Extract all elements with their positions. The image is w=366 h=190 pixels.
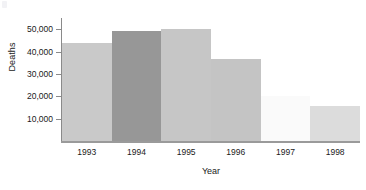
x-tick-label-1993: 1993 (62, 147, 112, 157)
x-axis-line (61, 141, 360, 143)
bar-1993 (62, 43, 112, 141)
x-axis-title: Year (62, 166, 360, 176)
y-tick-label: 50,000 (5, 24, 53, 34)
x-tick-label-1997: 1997 (261, 147, 311, 157)
bar-chart: Deaths 10,00020,00030,00040,00050,000 19… (0, 0, 366, 190)
x-tick-label-1996: 1996 (211, 147, 261, 157)
y-tick-label: 30,000 (5, 69, 53, 79)
bar-1995 (161, 29, 211, 141)
bar-1998 (310, 106, 360, 141)
y-tick-label: 10,000 (5, 114, 53, 124)
x-tick-label-1995: 1995 (161, 147, 211, 157)
plot-area (62, 18, 360, 141)
x-tick-label-1994: 1994 (112, 147, 162, 157)
corner-artifact (2, 1, 7, 8)
bar-1997 (261, 96, 311, 141)
y-tick-label: 40,000 (5, 47, 53, 57)
bar-1994 (112, 31, 162, 141)
x-tick-label-1998: 1998 (310, 147, 360, 157)
y-tick-label: 20,000 (5, 91, 53, 101)
bar-1996 (211, 59, 261, 141)
